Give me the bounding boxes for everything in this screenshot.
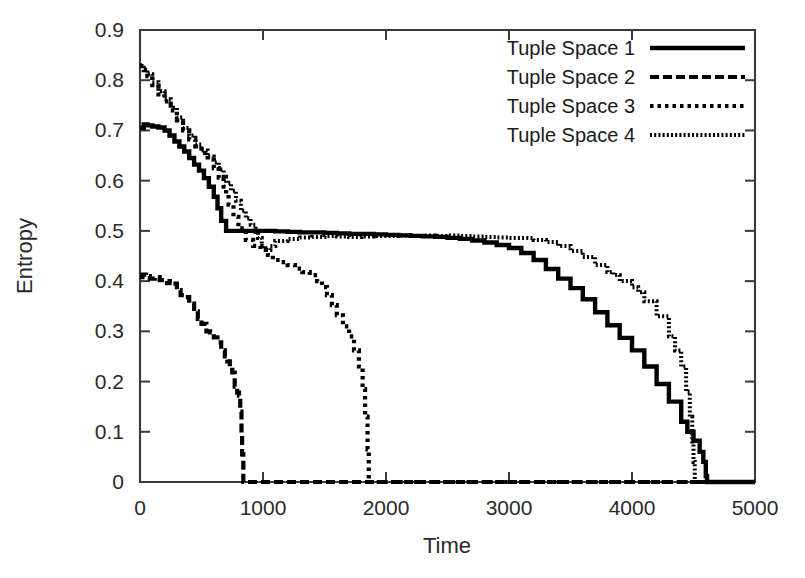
y-tick-label: 0.6 [95, 169, 124, 192]
x-tick-label: 3000 [486, 496, 533, 519]
y-tick-label: 0.1 [95, 420, 124, 443]
x-tick-label: 4000 [609, 496, 656, 519]
y-tick-label: 0.8 [95, 68, 124, 91]
y-tick-label: 0.3 [95, 319, 124, 342]
y-axis-title: Entropy [12, 218, 37, 294]
x-tick-label: 2000 [363, 496, 410, 519]
chart-canvas: 00.10.20.30.40.50.60.70.80.9010002000300… [0, 0, 805, 578]
series-line-1 [140, 124, 755, 482]
legend-label-2: Tuple Space 2 [507, 66, 635, 88]
y-tick-label: 0.5 [95, 219, 124, 242]
y-tick-label: 0 [112, 470, 124, 493]
plot-frame [140, 30, 755, 482]
legend-label-1: Tuple Space 1 [507, 37, 635, 59]
x-tick-label: 5000 [732, 496, 779, 519]
legend-label-3: Tuple Space 3 [507, 95, 635, 117]
plot-border [140, 30, 755, 482]
y-tick-label: 0.4 [95, 269, 125, 292]
entropy-vs-time-chart: 00.10.20.30.40.50.60.70.80.9010002000300… [0, 0, 805, 578]
series-line-2 [140, 275, 755, 482]
legend-label-4: Tuple Space 4 [507, 124, 635, 146]
x-axis-title: Time [423, 533, 471, 558]
y-tick-label: 0.7 [95, 118, 124, 141]
chart-legend: Tuple Space 1Tuple Space 2Tuple Space 3T… [507, 37, 745, 146]
axis-tick-labels: 00.10.20.30.40.50.60.70.80.9010002000300… [95, 18, 779, 519]
series-line-3 [140, 66, 755, 482]
axis-ticks [140, 30, 755, 482]
data-series-group [140, 65, 755, 482]
y-tick-label: 0.9 [95, 18, 124, 41]
x-tick-label: 1000 [240, 496, 287, 519]
series-line-4 [140, 65, 755, 482]
y-tick-label: 0.2 [95, 370, 124, 393]
x-tick-label: 0 [134, 496, 146, 519]
